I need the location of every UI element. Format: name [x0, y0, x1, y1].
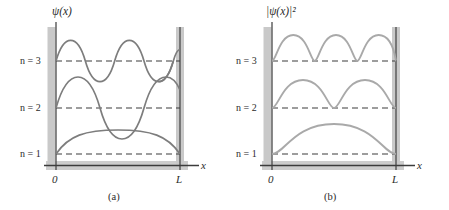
panel-a-tick-L: L: [176, 174, 182, 185]
panel-b-level-label-n3: n = 3: [236, 56, 257, 66]
panel-b-tick-0: 0: [268, 174, 274, 185]
curve-psi2-n3: [272, 35, 396, 61]
curve-psi2-n1: [272, 124, 396, 154]
panel-b-graphic: [224, 0, 449, 210]
panel-b-level-label-n1: n = 1: [236, 149, 257, 159]
panel-b-y-axis-label: |ψ(x)|²: [266, 6, 296, 18]
panel-b-x-axis-label: x: [417, 160, 422, 171]
curve-psi2-n2: [272, 80, 396, 108]
panel-b: |ψ(x)|² x n = 3 n = 2 n = 1 0 L (b): [224, 0, 449, 210]
panel-a-y-axis-label: ψ(x): [52, 6, 72, 18]
panel-a-tick-0: 0: [52, 174, 58, 185]
panel-b-tick-L: L: [392, 174, 398, 185]
left-wall: [264, 27, 272, 167]
panel-a-caption: (a): [108, 192, 120, 203]
left-wall: [48, 27, 56, 167]
curve-psi-n1: [56, 130, 180, 154]
panel-a: ψ(x) x n = 3 n = 2 n = 1 0 L (a): [0, 0, 224, 210]
panel-a-level-label-n3: n = 3: [20, 56, 41, 66]
figure-container: ψ(x) x n = 3 n = 2 n = 1 0 L (a): [0, 0, 449, 210]
curve-psi-n3: [56, 40, 173, 81]
panel-a-level-label-n1: n = 1: [20, 149, 41, 159]
panel-a-x-axis-label: x: [201, 160, 206, 171]
panel-a-level-label-n2: n = 2: [20, 103, 41, 113]
panel-b-caption: (b): [324, 192, 336, 203]
panel-b-level-label-n2: n = 2: [236, 103, 257, 113]
